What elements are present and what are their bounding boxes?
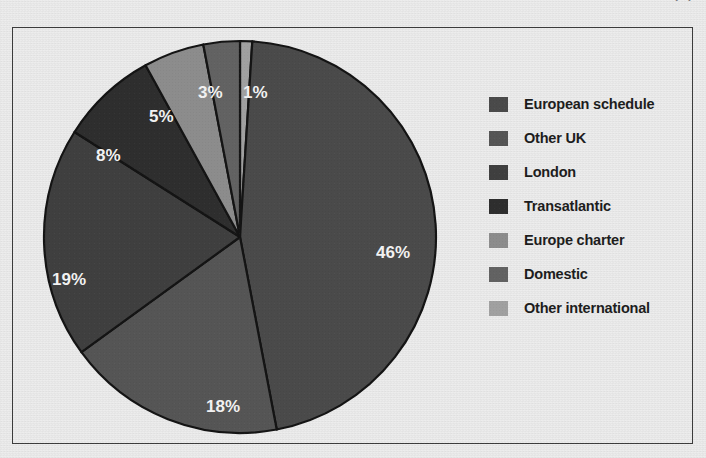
legend-swatch-icon — [489, 131, 508, 146]
figure-caption-text: FIGURE 3.9 PASSENGERS AT UK AIRPORTS BY … — [8, 0, 382, 1]
legend-item-label: Domestic — [524, 266, 588, 283]
legend-item-label: Other international — [524, 300, 650, 317]
legend-item[interactable]: Other UK — [489, 130, 689, 147]
legend-swatch-icon — [489, 97, 508, 112]
legend-item[interactable]: Other international — [489, 300, 689, 317]
legend-swatch-icon — [489, 165, 508, 180]
legend-item[interactable]: London — [489, 164, 689, 181]
legend-swatch-icon — [489, 199, 508, 214]
legend-item-label: Europe charter — [524, 232, 624, 249]
figure-caption-unit: (%) — [674, 0, 692, 1]
legend-item-label: European schedule — [524, 96, 654, 113]
legend-item-label: Other UK — [524, 130, 586, 147]
figure-caption-strip: FIGURE 3.9 PASSENGERS AT UK AIRPORTS BY … — [0, 0, 706, 12]
scanned-page: FIGURE 3.9 PASSENGERS AT UK AIRPORTS BY … — [0, 0, 706, 458]
legend-swatch-icon — [489, 267, 508, 282]
chart-legend: European scheduleOther UKLondonTransatla… — [489, 96, 689, 317]
legend-item[interactable]: European schedule — [489, 96, 689, 113]
legend-item-label: London — [524, 164, 576, 181]
legend-swatch-icon — [489, 233, 508, 248]
legend-item[interactable]: Transatlantic — [489, 198, 689, 215]
legend-item[interactable]: Europe charter — [489, 232, 689, 249]
legend-item[interactable]: Domestic — [489, 266, 689, 283]
legend-swatch-icon — [489, 301, 508, 316]
legend-item-label: Transatlantic — [524, 198, 611, 215]
